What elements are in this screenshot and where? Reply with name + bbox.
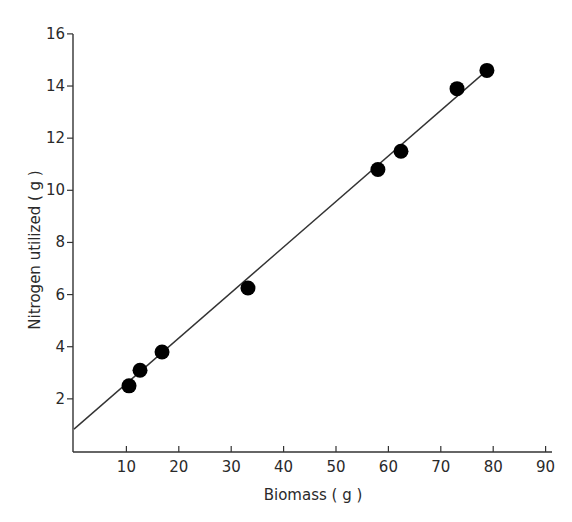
y-tick-label: 10 <box>46 181 65 199</box>
x-axis: 102030405060708090 <box>73 446 555 476</box>
x-tick-label: 80 <box>484 458 503 476</box>
y-tick-label: 16 <box>46 25 65 43</box>
data-point <box>479 63 494 78</box>
x-tick-label: 50 <box>326 458 345 476</box>
x-tick-label: 30 <box>222 458 241 476</box>
y-tick-label: 12 <box>46 129 65 147</box>
data-point <box>122 378 137 393</box>
scatter-chart: 246810121416 102030405060708090 Biomass … <box>0 0 572 522</box>
x-tick-label: 70 <box>431 458 450 476</box>
y-tick-label: 6 <box>55 286 65 304</box>
y-axis-title: Nitrogen utilized ( g ) <box>26 170 44 329</box>
data-point <box>393 144 408 159</box>
x-axis-title: Biomass ( g ) <box>264 486 363 504</box>
data-point <box>155 344 170 359</box>
x-tick-label: 10 <box>117 458 136 476</box>
data-point <box>133 363 148 378</box>
y-tick-label: 4 <box>55 338 65 356</box>
x-tick-label: 20 <box>169 458 188 476</box>
x-tick-label: 40 <box>274 458 293 476</box>
y-tick-label: 2 <box>55 390 65 408</box>
x-tick-label: 60 <box>379 458 398 476</box>
y-tick-label: 14 <box>46 77 65 95</box>
data-point <box>450 81 465 96</box>
y-axis: 246810121416 <box>46 25 73 452</box>
data-point <box>370 162 385 177</box>
y-tick-label: 8 <box>55 233 65 251</box>
x-tick-label: 90 <box>536 458 555 476</box>
data-point <box>240 281 255 296</box>
